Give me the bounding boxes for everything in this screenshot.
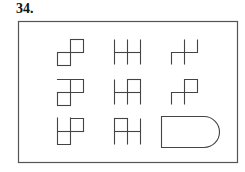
figure-r3c2 bbox=[115, 119, 141, 145]
answer-placeholder[interactable] bbox=[162, 117, 220, 148]
figure-r1c2 bbox=[115, 40, 141, 64]
puzzle-matrix bbox=[0, 0, 245, 172]
figure-r2c3 bbox=[172, 80, 198, 105]
figure-r2c2 bbox=[115, 80, 141, 105]
figure-r3c1 bbox=[58, 118, 84, 145]
figure-r1c1 bbox=[58, 40, 84, 66]
figure-r1c3 bbox=[172, 40, 198, 64]
figure-r2c1 bbox=[58, 80, 84, 106]
